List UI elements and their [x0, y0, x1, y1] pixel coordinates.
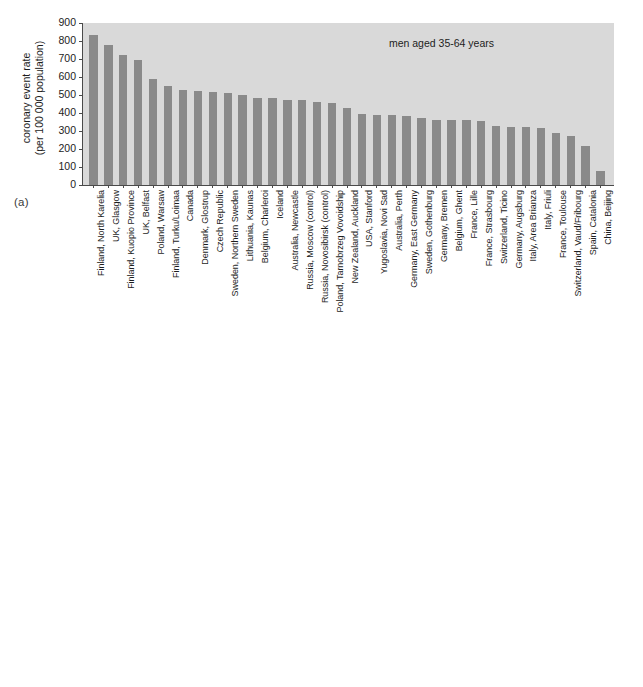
- x-tick-mark: [436, 185, 437, 188]
- x-axis-label: USA, Stanford: [364, 190, 374, 340]
- x-axis-label: Sweden, Gothenburg: [424, 190, 434, 340]
- y-tick-label: 900: [58, 16, 76, 28]
- x-tick-mark: [212, 185, 213, 188]
- bar: [581, 146, 589, 185]
- x-axis-label: Finland, Kuopio Province: [126, 190, 136, 340]
- x-tick-mark: [511, 185, 512, 188]
- y-tick-mark: [79, 149, 83, 150]
- x-tick-mark: [182, 185, 183, 188]
- bar: [507, 127, 515, 186]
- x-axis-label: Lithuania, Kaunas: [245, 190, 255, 340]
- y-tick-label: 300: [58, 124, 76, 136]
- bar: [194, 91, 202, 185]
- bar: [134, 60, 142, 185]
- y-tick-mark: [79, 131, 83, 132]
- y-tick-label: 600: [58, 70, 76, 82]
- bar: [522, 127, 530, 185]
- x-tick-mark: [376, 185, 377, 188]
- y-tick-mark: [79, 41, 83, 42]
- x-tick-mark: [138, 185, 139, 188]
- x-tick-mark: [481, 185, 482, 188]
- x-tick-mark: [361, 185, 362, 188]
- bar: [328, 103, 336, 185]
- x-tick-mark: [317, 185, 318, 188]
- y-tick-label: 700: [58, 52, 76, 64]
- y-tick-label: 200: [58, 142, 76, 154]
- x-tick-mark: [168, 185, 169, 188]
- x-axis-label: Denmark, Glostrup: [200, 190, 210, 340]
- x-tick-mark: [391, 185, 392, 188]
- bar: [462, 120, 470, 185]
- x-axis-label: UK, Belfast: [141, 190, 151, 340]
- x-tick-mark: [153, 185, 154, 188]
- bar: [313, 102, 321, 185]
- bar: [373, 115, 381, 185]
- x-tick-mark: [570, 185, 571, 188]
- bar: [268, 98, 276, 185]
- bar: [492, 126, 500, 185]
- bar: [596, 171, 604, 185]
- y-tick-label: 0: [70, 178, 76, 190]
- x-axis-label: Australia, Newcastle: [290, 190, 300, 340]
- x-axis-label: France, Lille: [469, 190, 479, 340]
- bar: [298, 100, 306, 185]
- bar: [552, 133, 560, 185]
- y-tick-mark: [79, 23, 83, 24]
- x-tick-mark: [108, 185, 109, 188]
- x-axis-label: Switzerland, Vaud/Fribourg: [573, 190, 583, 340]
- bar: [164, 86, 172, 185]
- x-axis-label: Australia, Perth: [394, 190, 404, 340]
- x-axis-label: Iceland: [275, 190, 285, 340]
- x-tick-mark: [406, 185, 407, 188]
- y-tick-mark: [79, 185, 83, 186]
- y-tick-label: 100: [58, 160, 76, 172]
- x-tick-mark: [525, 185, 526, 188]
- x-axis-label: Spain, Catalonia: [588, 190, 598, 340]
- x-tick-mark: [347, 185, 348, 188]
- x-tick-mark: [93, 185, 94, 188]
- x-axis-label: Russia, Novosibirsk (control): [320, 190, 330, 340]
- x-tick-mark: [421, 185, 422, 188]
- x-tick-mark: [332, 185, 333, 188]
- x-axis-label: France, Strasbourg: [484, 190, 494, 340]
- x-tick-mark: [585, 185, 586, 188]
- bar: [402, 116, 410, 185]
- x-tick-mark: [257, 185, 258, 188]
- x-tick-mark: [451, 185, 452, 188]
- y-tick-label: 500: [58, 88, 76, 100]
- x-tick-mark: [197, 185, 198, 188]
- bar: [89, 35, 97, 185]
- x-tick-mark: [272, 185, 273, 188]
- bar: [179, 90, 187, 185]
- bar: [224, 93, 232, 185]
- bar: [238, 95, 246, 185]
- y-axis-title-line1: coronary event rate: [20, 18, 33, 178]
- x-tick-mark: [242, 185, 243, 188]
- x-axis-label: Sweden, Northern Sweden: [230, 190, 240, 340]
- x-axis-label: UK, Glasgow: [111, 190, 121, 340]
- x-tick-mark: [302, 185, 303, 188]
- x-axis-label: Finland, Turku/Loimaa: [171, 190, 181, 340]
- x-tick-mark: [496, 185, 497, 188]
- bar: [283, 100, 291, 185]
- y-tick-label: 800: [58, 34, 76, 46]
- plot-area-men: men aged 35-64 years 0100200300400500600…: [82, 23, 614, 186]
- y-tick-mark: [79, 113, 83, 114]
- bar: [447, 120, 455, 185]
- panel-women: (b) coronary event rate (per 100 000 pop…: [0, 345, 643, 687]
- bar: [388, 115, 396, 185]
- bar-series-men: [83, 23, 614, 185]
- bar: [253, 98, 261, 185]
- x-tick-mark: [600, 185, 601, 188]
- x-axis-label: Italy, Friuli: [543, 190, 553, 340]
- x-tick-mark: [227, 185, 228, 188]
- x-axis-label: Yugoslavia, Novi Sad: [379, 190, 389, 340]
- x-tick-mark: [540, 185, 541, 188]
- bar: [149, 79, 157, 185]
- x-tick-mark: [466, 185, 467, 188]
- y-tick-mark: [79, 95, 83, 96]
- x-axis-label: Finland, North Karelia: [96, 190, 106, 340]
- x-axis-label: Poland, Tarnobrzeg Vovoidship: [335, 190, 345, 340]
- panel-men: (a) coronary event rate (per 100 000 pop…: [0, 0, 643, 345]
- x-axis-label: Belgium, Charleroi: [260, 190, 270, 340]
